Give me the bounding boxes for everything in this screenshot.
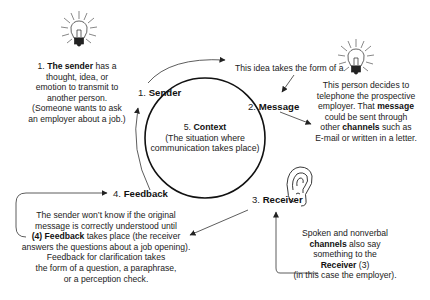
sender-note-text: has a — [93, 61, 116, 71]
stage-name: Feedback — [124, 188, 168, 199]
feedback-note-line: or a perception check. — [20, 274, 192, 285]
context-description: (The situation where — [150, 133, 260, 144]
arrow-message-to-note — [280, 112, 311, 124]
message-note-text: such as — [380, 122, 412, 132]
receiver-note-text: (3) — [356, 260, 369, 270]
lightbulb-icon — [61, 11, 97, 46]
receiver-note-bold: channels — [309, 239, 346, 249]
message-intro: This idea takes the form of a — [235, 63, 343, 74]
sender-note-line: thought, idea, or — [20, 72, 134, 83]
message-note-bold: message — [377, 101, 414, 111]
receiver-note-line: something to the — [290, 249, 400, 260]
arrow-intro-to-message — [282, 75, 294, 92]
context-description: communication takes place) — [150, 143, 260, 154]
message-note-bold: channels — [342, 122, 379, 132]
stage-label-message: 2. Message — [248, 101, 299, 112]
message-note-text: employer. That — [318, 101, 377, 111]
message-note-line: telephone the prospective — [310, 91, 422, 102]
feedback-note-line: The sender won’t know if the original — [20, 210, 192, 221]
sender-note-number: 1. — [38, 61, 48, 71]
arrow-receiver-to-feedback-note — [190, 210, 248, 235]
feedback-note: The sender won’t know if the original me… — [20, 210, 192, 284]
message-note-line: E-mail or written in a letter. — [310, 133, 422, 144]
message-note: This person decides to telephone the pro… — [310, 80, 422, 144]
context-label: 5. Context (The situation where communic… — [150, 122, 260, 154]
feedback-note-line: message is correctly understood until — [20, 221, 192, 232]
stage-number: 2. — [248, 101, 256, 112]
sender-note-line: another person. — [20, 93, 134, 104]
sender-note-line: an employer about a job.) — [20, 114, 134, 125]
context-number: 5. — [184, 122, 191, 132]
stage-name: Receiver — [263, 194, 303, 205]
stage-name: Message — [259, 101, 300, 112]
stage-name: Sender — [149, 87, 182, 98]
receiver-note-line: Spoken and nonverbal — [290, 228, 400, 239]
message-note-line: This person decides to — [310, 80, 422, 91]
feedback-note-bold: (4) Feedback — [32, 231, 85, 241]
feedback-note-line: the form of a question, a paraphrase, — [20, 263, 192, 274]
feedback-note-text: takes place (the receiver — [84, 231, 180, 241]
receiver-note-text: also say — [347, 239, 381, 249]
stage-label-sender: 1. Sender — [138, 87, 181, 98]
feedback-note-line: Feedback for clarification takes — [20, 252, 192, 263]
message-note-line: could be sent through — [310, 112, 422, 123]
receiver-note-line: (in this case the employer). — [290, 270, 400, 281]
stage-number: 1. — [138, 87, 146, 98]
sender-note-line: (Someone wants to ask — [20, 103, 134, 114]
stage-number: 4. — [113, 188, 121, 199]
receiver-note-bold: Receiver — [321, 260, 357, 270]
context-name: Context — [194, 122, 227, 132]
stage-number: 3. — [252, 194, 260, 205]
sender-note: 1. The sender has a thought, idea, or em… — [20, 61, 134, 125]
sender-note-bold: The sender — [47, 61, 93, 71]
stage-label-feedback: 4. Feedback — [113, 188, 168, 199]
stage-label-receiver: 3. Receiver — [252, 194, 303, 205]
message-note-text: other — [320, 122, 342, 132]
feedback-note-line: answers the questions about a job openin… — [20, 242, 192, 253]
receiver-note: Spoken and nonverbal channels also say s… — [290, 228, 400, 281]
arrow-sender-to-message — [148, 60, 225, 83]
sender-note-line: emotion to transmit to — [20, 82, 134, 93]
